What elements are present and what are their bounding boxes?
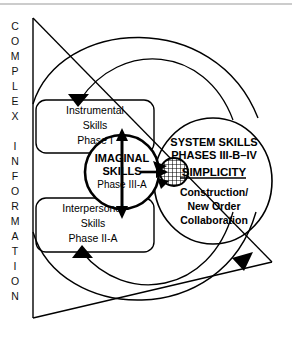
axis-letter: X: [8, 110, 22, 122]
axis-letter: I: [8, 260, 22, 272]
system-skills-line-2: PHASES III-B–IV: [159, 150, 269, 162]
interpersonal-skills-line-1: Interpersonal: [34, 203, 152, 214]
axis-letter: O: [8, 275, 22, 287]
axis-letter: O: [8, 35, 22, 47]
instrumental-skills-line-1: Instrumental: [36, 105, 154, 116]
axis-letter: N: [8, 155, 22, 167]
axis-letter: I: [8, 140, 22, 152]
system-skills-line-3: Construction/: [159, 187, 269, 198]
axis-letter: N: [8, 290, 22, 302]
imaginal-skills-line-1: IMAGINAL: [85, 153, 159, 165]
axis-letter: A: [8, 230, 22, 242]
instrumental-skills-line-3: Phase I: [36, 135, 154, 146]
imaginal-skills-line-2: SKILLS: [85, 166, 159, 178]
axis-letter: M: [8, 215, 22, 227]
axis-letter: R: [8, 200, 22, 212]
axis-letter: E: [8, 95, 22, 107]
diagonal-lower: [33, 262, 272, 318]
diagram-canvas: C O M P L E X I N F O R M A T I O N Inst…: [0, 0, 292, 343]
axis-letter: F: [8, 170, 22, 182]
system-skills-line-5: Collaboration: [159, 215, 269, 226]
axis-letter: O: [8, 185, 22, 197]
instrumental-skills-line-2: Skills: [36, 120, 154, 131]
interpersonal-skills-line-2: Skills: [34, 218, 152, 229]
imaginal-skills-line-3: Phase III-A: [85, 180, 159, 191]
axis-letter: C: [8, 20, 22, 32]
system-skills-line-1: SYSTEM SKILLS: [159, 137, 269, 149]
axis-letter: M: [8, 50, 22, 62]
axis-letter: L: [8, 80, 22, 92]
system-skills-line-4: New Order: [159, 201, 269, 212]
interpersonal-skills-line-3: Phase II-A: [34, 233, 152, 244]
axis-letter: P: [8, 65, 22, 77]
axis-letter: T: [8, 245, 22, 257]
system-skills-simplicity: SIMPLICITY: [159, 166, 269, 178]
